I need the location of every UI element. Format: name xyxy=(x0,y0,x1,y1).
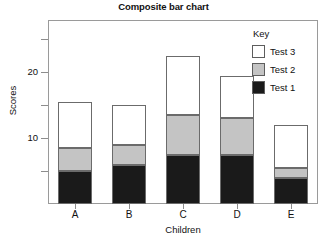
y-tick xyxy=(41,138,48,139)
bar-segment xyxy=(220,155,254,204)
bar-segment xyxy=(274,168,308,178)
bar-segment xyxy=(274,125,308,168)
bar-segment xyxy=(112,165,146,204)
bar-segment xyxy=(112,145,146,165)
legend-swatch-icon xyxy=(252,81,265,94)
legend-swatch-icon xyxy=(252,63,265,76)
x-tick-label-c: C xyxy=(163,209,203,220)
y-tick xyxy=(41,72,48,73)
legend-title: Key xyxy=(252,28,316,39)
legend-rows: Test 3Test 2Test 1 xyxy=(252,42,316,96)
bar-segment xyxy=(166,115,200,154)
legend: Key Test 3Test 2Test 1 xyxy=(252,28,316,96)
bar-segment xyxy=(274,178,308,204)
x-tick-label-e: E xyxy=(271,209,311,220)
bar-segment xyxy=(220,118,254,154)
y-tick xyxy=(41,39,48,40)
y-tick xyxy=(41,171,48,172)
legend-label: Test 2 xyxy=(270,64,295,75)
x-tick-label-a: A xyxy=(55,209,95,220)
x-axis-label: Children xyxy=(48,224,318,235)
legend-swatch-icon xyxy=(252,45,265,58)
bar-segment xyxy=(166,155,200,204)
bar-segment xyxy=(58,148,92,171)
bar-segment xyxy=(112,105,146,144)
composite-bar-chart: Composite bar chart Scores 1020 ABCDE Ch… xyxy=(0,0,327,240)
y-tick xyxy=(41,105,48,106)
bar-segment xyxy=(58,171,92,204)
y-tick-label: 10 xyxy=(12,133,38,143)
bar-segment xyxy=(58,102,92,148)
y-tick-label: 20 xyxy=(12,67,38,77)
legend-item: Test 1 xyxy=(252,78,316,96)
legend-label: Test 1 xyxy=(270,82,295,93)
bar-segment xyxy=(220,76,254,119)
legend-item: Test 2 xyxy=(252,60,316,78)
bar-segment xyxy=(166,56,200,115)
legend-item: Test 3 xyxy=(252,42,316,60)
x-tick-label-b: B xyxy=(109,209,149,220)
x-tick-label-d: D xyxy=(217,209,257,220)
legend-label: Test 3 xyxy=(270,46,295,57)
